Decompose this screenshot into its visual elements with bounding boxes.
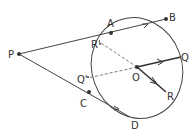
label-Qprime: Q' (77, 74, 88, 85)
point-O (135, 65, 139, 69)
label-Q: Q (181, 52, 189, 63)
point-P (17, 52, 21, 56)
label-O: O (132, 72, 140, 83)
label-B: B (169, 12, 176, 23)
label-D: D (131, 120, 139, 131)
geometry-diagram: P A B C D O Q R R' Q' (0, 0, 195, 138)
point-B (164, 17, 168, 21)
point-C (87, 90, 91, 94)
label-A: A (107, 18, 114, 29)
vector-OR (137, 67, 166, 92)
dashed-O-Qprime (88, 67, 137, 78)
line-PD (19, 54, 130, 117)
point-A (109, 31, 113, 35)
label-C: C (80, 98, 87, 109)
label-R: R (167, 91, 174, 102)
label-P: P (8, 49, 14, 60)
vector-OQ (137, 57, 181, 67)
label-Rprime: R' (91, 39, 101, 50)
dashed-O-Rprime (101, 43, 137, 67)
